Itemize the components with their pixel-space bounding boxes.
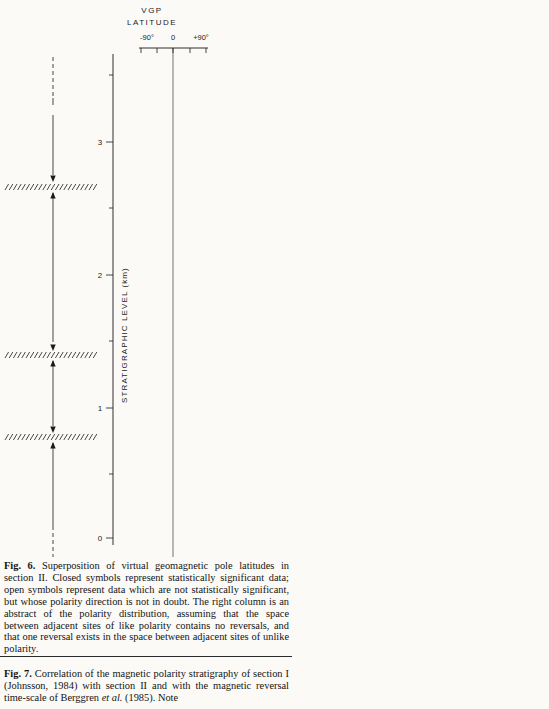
up-arrowhead-icon: [50, 442, 55, 449]
vgp-axis-tick-label: 0: [171, 33, 175, 42]
caption-divider: [0, 656, 292, 657]
fig7-caption: Fig. 7. Correlation of the magnetic pola…: [4, 668, 289, 704]
fig6-strat-axis-title: STRATIGRAPHIC LEVEL (km): [120, 267, 129, 403]
fig7-caption-label: Fig. 7.: [4, 668, 32, 679]
fig6-caption-text: Superposition of virtual geomagnetic pol…: [4, 560, 289, 654]
vgp-axis-tick-label: +90°: [193, 33, 209, 42]
fig6-plot: VGPLATITUDE-90°0+90°3210STRATIGRAPHIC LE…: [5, 6, 209, 558]
fig6-caption: Fig. 6. Superposition of virtual geomagn…: [4, 560, 289, 655]
fig6-title: LATITUDE: [127, 18, 177, 27]
up-arrowhead-icon: [50, 360, 55, 367]
vgp-axis-tick-label: -90°: [140, 33, 154, 42]
strat-tick-label: 1: [98, 404, 103, 413]
scanned-paper-page: VGPLATITUDE-90°0+90°3210STRATIGRAPHIC LE…: [0, 0, 549, 709]
unconformity-hatch: [5, 184, 97, 190]
down-arrowhead-icon: [50, 176, 55, 183]
fig6-title: VGP: [141, 6, 162, 15]
fig7-caption-citation: et al.: [102, 692, 123, 703]
unconformity-hatch: [5, 434, 97, 440]
strat-tick-label: 3: [98, 138, 103, 147]
unconformity-hatch: [5, 352, 97, 358]
strat-tick-label: 0: [98, 534, 103, 543]
down-arrowhead-icon: [50, 345, 55, 352]
fig6-caption-label: Fig. 6.: [4, 560, 35, 571]
down-arrowhead-icon: [50, 427, 55, 434]
up-arrowhead-icon: [50, 192, 55, 199]
strat-tick-label: 2: [98, 271, 103, 280]
fig7-caption-text-post: (1985). Note: [122, 692, 178, 703]
